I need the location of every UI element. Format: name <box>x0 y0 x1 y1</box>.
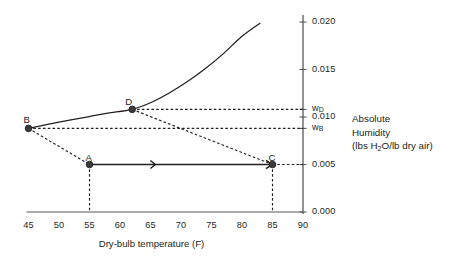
x-tick-label-50: 50 <box>44 220 74 230</box>
mixing-line-B-to-A <box>29 128 90 164</box>
data-point-label-D: D <box>125 96 132 107</box>
psychrometric-chart: 45505560657075808590 0.0000.0050.0100.01… <box>0 0 454 261</box>
saturation-curve <box>29 23 261 128</box>
x-tick-label-60: 60 <box>105 220 135 230</box>
y-tick-label-0-000: 0.000 <box>312 206 336 216</box>
y-axis-caption: Absolute Humidity (lbs H2O/lb dry air) <box>352 112 433 154</box>
x-tick-label-55: 55 <box>75 220 105 230</box>
y-tick-label-wD: wD <box>312 103 324 113</box>
data-point-label-B: B <box>24 114 30 125</box>
caption-units-post: O/lb dry air) <box>382 140 433 151</box>
caption-units-pre: (lbs H <box>352 140 378 151</box>
x-tick-label-70: 70 <box>166 220 196 230</box>
x-tick-label-45: 45 <box>14 220 44 230</box>
x-tick-label-85: 85 <box>258 220 288 230</box>
y-tick-label-0-020: 0.020 <box>312 16 336 26</box>
y-axis-caption-line-3: (lbs H2O/lb dry air) <box>352 139 433 154</box>
caption-units-subscript: 2 <box>378 144 382 153</box>
y-tick-label-0-015: 0.015 <box>312 64 336 74</box>
data-points-group <box>25 106 276 168</box>
x-tick-label-75: 75 <box>197 220 227 230</box>
data-point-label-A: A <box>86 152 92 163</box>
y-tick-label-0-005: 0.005 <box>312 159 336 169</box>
x-tick-label-80: 80 <box>227 220 257 230</box>
y-axis-caption-line-1: Absolute <box>352 112 433 126</box>
mixing-line-D-to-C <box>132 109 272 164</box>
axes-group <box>27 15 307 214</box>
data-point-marker-B <box>25 125 32 132</box>
x-tick-label-65: 65 <box>136 220 166 230</box>
y-axis-caption-line-2: Humidity <box>352 126 433 140</box>
x-axis-title: Dry-bulb temperature (F) <box>0 238 303 249</box>
x-tick-label-90: 90 <box>288 220 318 230</box>
y-tick-label-wB: wB <box>312 122 323 132</box>
data-series-group <box>29 23 273 169</box>
data-point-label-C: C <box>269 152 276 163</box>
